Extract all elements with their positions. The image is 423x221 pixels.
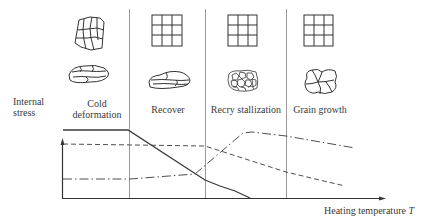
fine-equiaxed-grains-icon: [228, 70, 258, 91]
coarse-grains-icon: [305, 69, 337, 94]
stage-3-label: Recry stallization: [207, 104, 285, 115]
recrystallized-lattice-icon: [228, 15, 257, 46]
x-axis-label: Heating temperature T: [324, 205, 414, 216]
grown-lattice-icon: [304, 15, 333, 46]
recovered-grains-icon: [149, 71, 190, 88]
recovered-lattice-icon: [152, 15, 182, 46]
dash-dot-curve: [63, 132, 355, 179]
y-axis-label: Internal stress: [13, 96, 44, 118]
curves: [63, 130, 355, 198]
axes: [61, 138, 387, 201]
deformed-lattice-icon: [75, 17, 104, 50]
y-axis-label-line-2: stress: [13, 107, 44, 118]
solid-curve: [63, 130, 250, 198]
x-axis-label-text: Heating temperature: [324, 205, 406, 216]
stage-4-label: Grain growth: [290, 104, 350, 115]
stage-1-label-line-1: Cold: [70, 98, 124, 109]
flattened-grains-icon: [69, 65, 109, 83]
stage-1-label-line-2: deformation: [70, 109, 124, 120]
stage-2-label: Recover: [140, 104, 196, 115]
x-axis-variable: T: [408, 205, 414, 216]
y-axis-label-line-1: Internal: [13, 96, 44, 107]
stage-1-label: Cold deformation: [70, 98, 124, 120]
x-axis-arrow-icon: [379, 197, 386, 201]
